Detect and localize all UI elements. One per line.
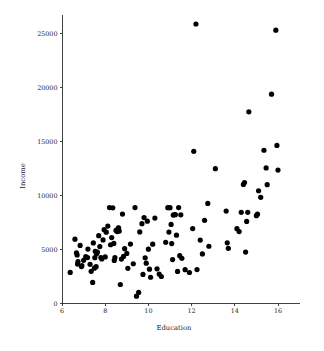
data-point [275,168,280,173]
y-tick-label: 5000 [41,246,57,254]
data-point [159,274,164,279]
data-point [150,242,155,247]
data-point [256,188,261,193]
data-point [183,267,188,272]
data-point [202,218,207,223]
y-tick-label: 15000 [37,138,57,146]
data-point [169,241,174,246]
y-tick-label: 20000 [37,84,57,92]
data-point [145,219,150,224]
data-point [191,149,196,154]
data-point [68,270,73,275]
x-axis: 6810121416 [60,304,300,316]
data-point [166,230,171,235]
data-point [187,270,192,275]
data-point [146,247,151,252]
y-tick-label: 10000 [37,192,57,200]
y-tick-label: 0 [53,300,57,308]
x-tick-label: 10 [144,307,152,315]
data-point [179,256,184,261]
scatter-plot-figure: 0500010000150002000025000 6810121416 Edu… [0,0,324,351]
data-point [85,246,90,251]
data-point [100,237,105,242]
data-point [213,166,218,171]
data-point [261,148,266,153]
data-point [90,280,95,285]
data-point [154,266,159,271]
data-point [110,205,115,210]
data-point [79,263,84,268]
data-point [246,109,251,114]
data-point [148,275,153,280]
data-point [75,252,80,257]
data-point [87,262,92,267]
data-point [128,242,133,247]
data-point [144,261,149,266]
data-point [78,243,83,248]
data-point [194,267,199,272]
data-point [255,212,260,217]
data-point [118,282,123,287]
data-point [136,290,141,295]
y-tick-label: 25000 [37,30,57,38]
data-point [111,241,116,246]
data-point [273,28,278,33]
x-tick-label: 16 [274,307,282,315]
data-point [243,249,248,254]
y-axis: 0500010000150002000025000 [37,15,62,308]
data-point [269,92,274,97]
data-point [147,267,152,272]
chart-canvas: 0500010000150002000025000 6810121416 Edu… [0,0,324,351]
data-point [237,229,242,234]
data-point [206,244,211,249]
plot-area: 0500010000150002000025000 6810121416 Edu… [0,0,324,351]
data-point [198,238,203,243]
data-point [264,165,269,170]
data-point [242,180,247,185]
data-point [96,233,101,238]
x-tick-label: 12 [188,307,196,315]
data-point [170,257,175,262]
data-point [152,215,157,220]
data-point [131,261,136,266]
data-point [265,182,270,187]
x-tick-label: 8 [103,307,107,315]
data-point [94,264,99,269]
data-point [245,210,250,215]
data-point [173,212,178,217]
data-point [109,235,114,240]
data-point [200,251,205,256]
data-point [140,272,145,277]
data-point [112,255,117,260]
data-point [72,237,77,242]
data-point [95,250,100,255]
data-point [163,240,168,245]
data-point [168,222,173,227]
data-point [117,228,122,233]
x-axis-title: Education [157,324,193,332]
data-point [139,221,144,226]
data-point [175,269,180,274]
data-point [122,246,127,251]
data-point [176,205,181,210]
data-point [205,201,210,206]
data-point [105,223,110,228]
data-point [193,21,198,26]
data-point [137,229,142,234]
data-point [124,251,129,256]
data-point [91,240,96,245]
data-point [224,208,229,213]
data-point [178,212,183,217]
data-point [103,254,108,259]
y-axis-title: Income [19,163,27,188]
data-point [104,230,109,235]
data-point [225,240,230,245]
data-point [174,233,179,238]
data-point [239,210,244,215]
data-point [167,205,172,210]
data-point [85,255,90,260]
data-point [132,205,137,210]
data-point [226,246,231,251]
x-tick-label: 6 [60,307,64,315]
data-point [274,143,279,148]
